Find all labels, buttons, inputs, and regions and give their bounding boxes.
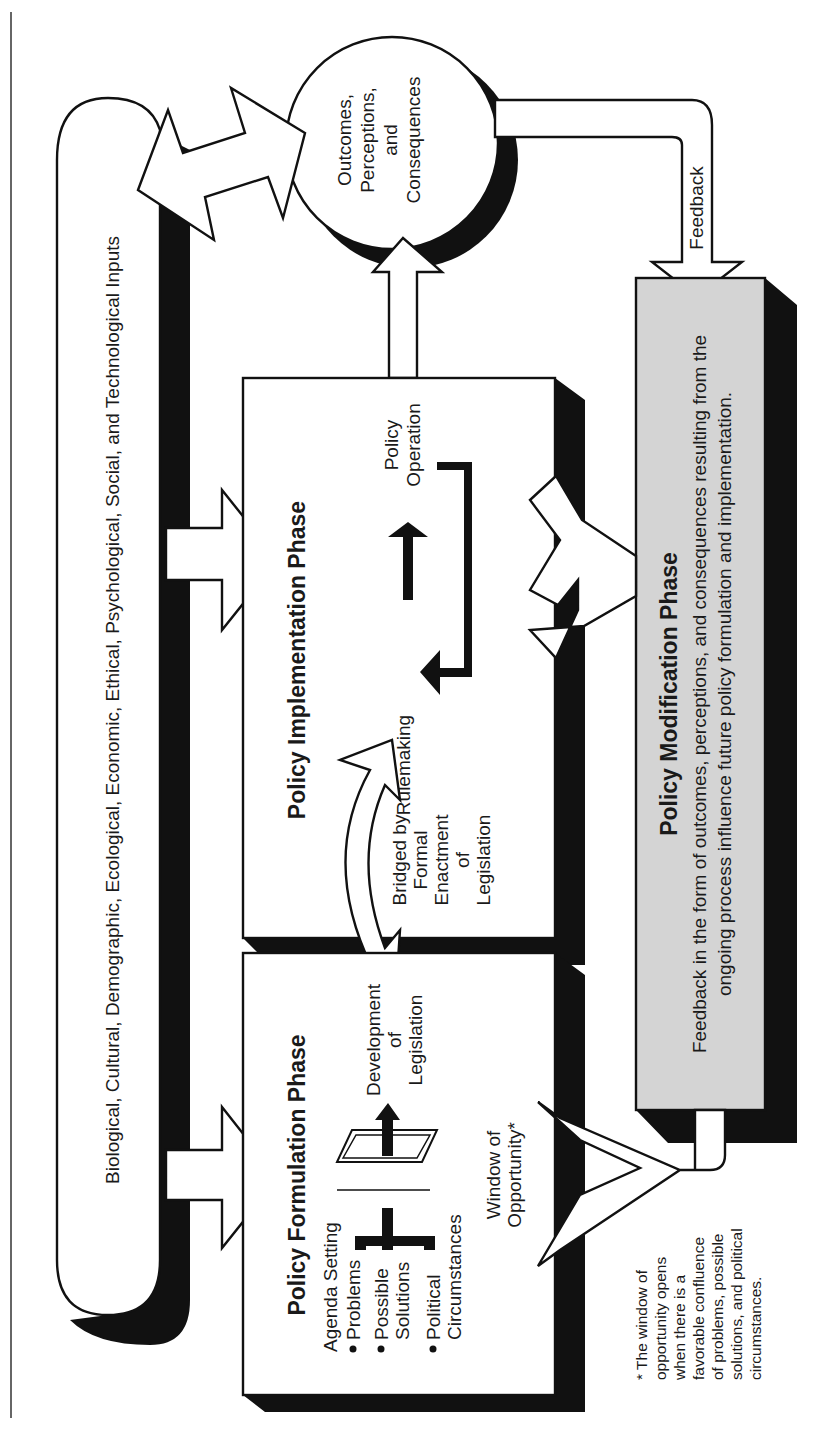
outcomes-line-2: Perceptions, [357, 87, 378, 193]
footnote-line-2: opportunity opens [652, 1257, 669, 1380]
modification-description-line-2: ongoing process influence future policy … [714, 392, 735, 996]
bullet-political-circumstances-line-2: Circumstances [444, 1214, 465, 1340]
modification-phase-title: Policy Modification Phase [656, 552, 682, 836]
footnote-line-6: solutions, and political [728, 1228, 745, 1380]
outcomes-line-1: Outcomes, [334, 94, 355, 186]
bullet-icon [350, 1346, 357, 1353]
development-line-2: of [384, 1031, 405, 1048]
footnote: * The window of opportunity opens when t… [633, 1228, 764, 1381]
bullet-icon [378, 1346, 385, 1353]
footnote-line-4: favorable confluence [690, 1237, 707, 1380]
agenda-setting-label: Agenda Setting [320, 1222, 341, 1352]
window-line-2: Opportunity* [504, 1122, 525, 1228]
window-line-1: Window of [483, 1130, 504, 1219]
feedback-label: Feedback [686, 166, 707, 250]
footnote-line-7: circumstances. [747, 1277, 764, 1380]
policy-operation-line-2: Operation [403, 403, 424, 486]
formulation-phase-title: Policy Formulation Phase [284, 1034, 310, 1315]
outcomes-line-4: Consequences [403, 77, 424, 204]
policy-process-diagram: Feedback Policy Implementation Phase Rul… [0, 0, 828, 1432]
policy-operation-line-1: Policy [381, 419, 402, 470]
window-of-opportunity-label: Window of Opportunity* [483, 1122, 525, 1228]
bridge-line-3: Enactment [431, 814, 452, 906]
bridge-label: Bridged by Formal Enactment of Legislati… [389, 814, 494, 906]
footnote-line-3: when there is a [671, 1275, 688, 1381]
bridge-line-5: Legislation [473, 815, 494, 906]
footnote-line-5: of problems, possible [709, 1234, 726, 1380]
bullet-problems: Problems [343, 1260, 364, 1340]
bridge-line-1: Bridged by [389, 814, 410, 905]
inputs-band-label: Biological, Cultural, Demographic, Ecolo… [102, 236, 123, 1184]
development-line-3: Legislation [405, 995, 426, 1086]
development-line-1: Development [363, 983, 384, 1096]
outcomes-circle [286, 37, 518, 268]
implementation-phase-title: Policy Implementation Phase [284, 501, 310, 819]
bullet-political-circumstances-line-1: Political [423, 1275, 444, 1340]
bullet-icon [430, 1346, 437, 1353]
bullet-possible-solutions-line-1: Possible [371, 1268, 392, 1340]
outcomes-line-3: and [380, 124, 401, 156]
modification-description-line-1: Feedback in the form of outcomes, percep… [689, 335, 710, 1053]
bridge-line-2: Formal [410, 830, 431, 889]
bridge-line-4: of [452, 851, 473, 868]
footnote-line-1: * The window of [633, 1269, 650, 1380]
bullet-possible-solutions-line-2: Solutions [392, 1262, 413, 1340]
